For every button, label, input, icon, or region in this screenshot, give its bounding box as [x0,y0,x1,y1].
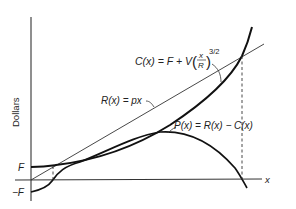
break-even-diagram: Dollars x F −F C(x) = F + V ( x R ) 3/2 … [0,0,296,209]
cost-label-main: C(x) = F + V [135,55,193,67]
profit-label: P(x) = R(x) − C(x) [174,120,253,131]
revenue-leader [146,101,154,107]
cost-label: C(x) = F + V ( x R ) 3/2 [135,47,219,70]
cost-label-frac-num: x [198,51,204,60]
revenue-label: R(x) = px [101,95,143,106]
cost-label-exponent: 3/2 [209,47,219,56]
x-axis-label: x [264,174,271,185]
cost-label-paren-open: ( [192,53,197,70]
neg-f-tick-label: −F [12,187,25,198]
y-axis-label: Dollars [10,97,21,127]
axes [15,17,262,201]
cost-label-frac-den: R [198,61,204,70]
f-tick-label: F [18,162,25,173]
cost-leader [212,64,221,82]
